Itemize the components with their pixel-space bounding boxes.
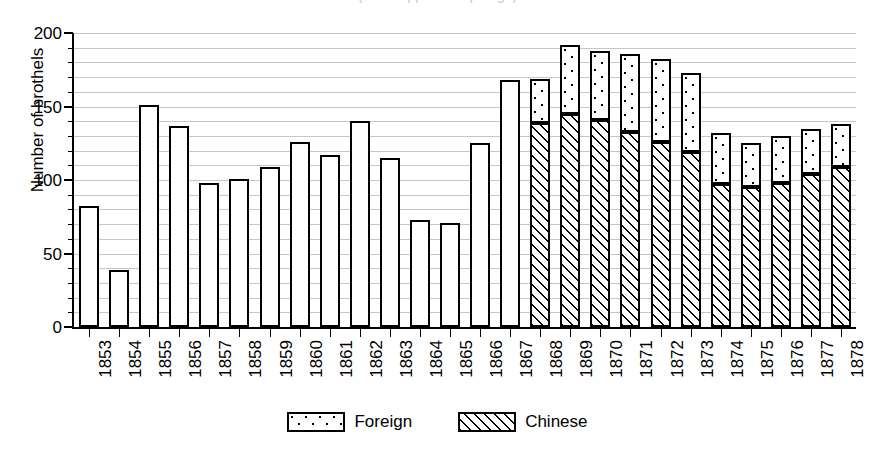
gridline bbox=[74, 165, 856, 166]
bar-group bbox=[199, 33, 219, 327]
bar-segment-foreign bbox=[741, 143, 761, 187]
y-axis-tick-mark bbox=[64, 253, 73, 255]
x-axis-tick-mark bbox=[661, 329, 662, 337]
bar-group bbox=[741, 33, 761, 327]
bar-segment-chinese bbox=[620, 132, 640, 328]
bar-segment-total bbox=[500, 80, 520, 327]
legend-swatch-foreign bbox=[287, 412, 345, 432]
bar-group bbox=[470, 33, 490, 327]
bar-segment-total bbox=[440, 223, 460, 327]
bar-group bbox=[139, 33, 159, 327]
gridline bbox=[74, 92, 856, 93]
bar-segment-foreign bbox=[560, 45, 580, 114]
x-axis-tick-mark bbox=[179, 329, 180, 337]
x-axis-tick-mark bbox=[480, 329, 481, 337]
gridline bbox=[74, 268, 856, 269]
bar-segment-foreign bbox=[651, 59, 671, 141]
bar-group bbox=[109, 33, 129, 327]
bar-segment-total bbox=[350, 121, 370, 327]
legend-entry: Chinese bbox=[458, 412, 587, 432]
x-axis-tick-mark bbox=[751, 329, 752, 337]
bar-group bbox=[651, 33, 671, 327]
bar-segment-chinese bbox=[711, 184, 731, 327]
gridline bbox=[74, 239, 856, 240]
bar-segment-chinese bbox=[831, 167, 851, 327]
x-axis-tick-mark bbox=[540, 329, 541, 337]
gridline bbox=[74, 77, 856, 78]
bar-segment-chinese bbox=[771, 183, 791, 327]
bar-group bbox=[530, 33, 550, 327]
y-axis-minor-tick-mark bbox=[68, 62, 73, 63]
y-axis-minor-tick-mark bbox=[68, 165, 73, 166]
bar-segment-foreign bbox=[801, 129, 821, 175]
x-axis-tick-mark bbox=[360, 329, 361, 337]
bar-group bbox=[410, 33, 430, 327]
y-axis-tick-label: 0 bbox=[53, 319, 62, 336]
y-axis-tick-labels: 050100150200 bbox=[22, 0, 62, 457]
bar-segment-total bbox=[139, 105, 159, 327]
chart-title: (title cropped at top edge) bbox=[0, 0, 875, 3]
bar-segment-chinese bbox=[741, 187, 761, 327]
x-axis-tick-mark bbox=[420, 329, 421, 337]
x-axis-tick-mark bbox=[119, 329, 120, 337]
x-axis-tick-label: 1858 bbox=[247, 340, 264, 378]
gridline bbox=[74, 195, 856, 196]
chart-figure: (title cropped at top edge) Number of br… bbox=[0, 0, 875, 457]
bar-group bbox=[229, 33, 249, 327]
bar-group bbox=[260, 33, 280, 327]
y-axis-minor-tick-mark bbox=[68, 268, 73, 269]
x-axis-tick-label: 1872 bbox=[669, 340, 686, 378]
gridline bbox=[74, 209, 856, 210]
x-axis-tick-mark bbox=[721, 329, 722, 337]
x-axis-tick-mark bbox=[89, 329, 90, 337]
gridline bbox=[74, 136, 856, 137]
x-axis-tick-label: 1863 bbox=[398, 340, 415, 378]
x-axis-tick-mark bbox=[841, 329, 842, 337]
bar-segment-foreign bbox=[771, 136, 791, 183]
bar-group bbox=[79, 33, 99, 327]
x-axis-tick-label: 1864 bbox=[428, 340, 445, 378]
y-axis-tick-mark bbox=[64, 326, 73, 328]
gridline bbox=[74, 254, 856, 255]
y-axis-minor-tick-mark bbox=[68, 136, 73, 137]
bar-segment-chinese bbox=[590, 120, 610, 327]
y-axis-tick-mark bbox=[64, 32, 73, 34]
x-axis-tick-label: 1869 bbox=[578, 340, 595, 378]
x-axis-tick-label: 1857 bbox=[217, 340, 234, 378]
gridline bbox=[74, 180, 856, 181]
gridline bbox=[74, 283, 856, 284]
bar-segment-total bbox=[109, 270, 129, 327]
y-axis-minor-tick-mark bbox=[68, 195, 73, 196]
x-axis-tick-label: 1875 bbox=[759, 340, 776, 378]
bar-segment-foreign bbox=[711, 133, 731, 184]
bar-segment-total bbox=[380, 158, 400, 327]
y-axis-minor-tick-mark bbox=[68, 224, 73, 225]
bar-segment-total bbox=[320, 155, 340, 327]
legend-label: Chinese bbox=[525, 412, 587, 432]
gridline bbox=[74, 107, 856, 108]
bar-segment-chinese bbox=[530, 123, 550, 327]
y-axis-minor-tick-mark bbox=[68, 298, 73, 299]
bar-segment-chinese bbox=[801, 174, 821, 327]
x-axis-tick-mark bbox=[811, 329, 812, 337]
x-axis-tick-mark bbox=[630, 329, 631, 337]
y-axis-minor-tick-mark bbox=[68, 151, 73, 152]
bar-group bbox=[350, 33, 370, 327]
cropped-title-strip: (title cropped at top edge) bbox=[0, 0, 875, 14]
x-axis-tick-label: 1855 bbox=[157, 340, 174, 378]
x-axis-tick-label: 1862 bbox=[368, 340, 385, 378]
bar-group bbox=[771, 33, 791, 327]
bar-segment-total bbox=[199, 183, 219, 327]
y-axis-tick-label: 150 bbox=[34, 98, 62, 115]
gridline bbox=[74, 33, 856, 34]
y-axis-minor-tick-mark bbox=[68, 239, 73, 240]
x-axis-tick-label: 1874 bbox=[729, 340, 746, 378]
x-axis-tick-label: 1866 bbox=[488, 340, 505, 378]
y-axis-minor-tick-mark bbox=[68, 121, 73, 122]
bar-segment-total bbox=[79, 206, 99, 327]
plot-area bbox=[74, 33, 856, 327]
x-axis-tick-label: 1868 bbox=[548, 340, 565, 378]
legend-entry: Foreign bbox=[287, 412, 412, 432]
x-axis-tick-label: 1861 bbox=[338, 340, 355, 378]
gridline bbox=[74, 62, 856, 63]
